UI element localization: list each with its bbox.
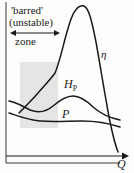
label-zone: zone: [15, 36, 36, 47]
curve-label-h-p-subscript: P: [73, 84, 77, 93]
label-barred: 'barred': [11, 5, 43, 16]
x-axis-label: Q: [117, 158, 126, 170]
label-unstable: (unstable): [9, 17, 53, 28]
curve-label-h-p-base: H: [64, 77, 73, 91]
curve-label-eta: η: [101, 49, 106, 60]
figure-container: 'barred' (unstable) zone η HP P Q: [0, 0, 134, 173]
curve-label-p: P: [62, 108, 69, 120]
curve-label-h-p: HP: [64, 78, 77, 93]
zone-arrowhead-right-icon: [54, 30, 60, 36]
